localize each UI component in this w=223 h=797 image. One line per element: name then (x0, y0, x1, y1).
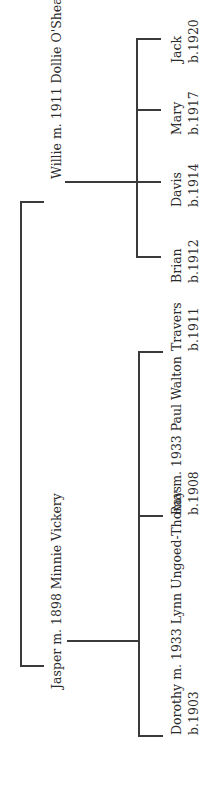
child-ray: Ray m. 1933 Paul Walton b.1908 (168, 356, 202, 515)
child-birth: b.1920 (185, 19, 202, 63)
child-tick-ray (138, 515, 163, 517)
children-bracket-willie (136, 38, 138, 258)
family-tree: Jasper m. 1898 Minnie Vickery Dorothy m.… (0, 0, 223, 797)
child-mary: Mary b.1917 (168, 91, 202, 135)
child-name: Brian (168, 239, 185, 283)
child-tick-brian (136, 256, 161, 258)
child-name: Mary (168, 91, 185, 135)
child-davis: Davis b.1914 (168, 163, 202, 207)
child-tick-davis (136, 181, 161, 183)
child-birth: b.1908 (185, 356, 202, 515)
child-brian: Brian b.1912 (168, 239, 202, 283)
children-bracket-jasper (138, 351, 140, 737)
child-name: Ray m. 1933 Paul Walton (168, 356, 185, 515)
sibling-tick-willie (20, 201, 44, 203)
child-tick-travers (138, 351, 163, 353)
couple-label-jasper: Jasper m. 1898 Minnie Vickery (50, 493, 64, 689)
child-birth: b.1912 (185, 239, 202, 283)
child-tick-dorothy (138, 735, 163, 737)
descent-line-willie (65, 181, 138, 183)
child-birth: b.1914 (185, 163, 202, 207)
sibling-bracket-line (20, 201, 22, 667)
child-birth: b.1911 (185, 302, 202, 351)
child-tick-jack (136, 38, 161, 40)
sibling-tick-jasper (20, 665, 44, 667)
child-dorothy: Dorothy m. 1933 Lynn Ungoed-Thomas b.190… (168, 486, 202, 735)
couple-label-willie: Willie m. 1911 Dollie O'Shea (50, 0, 64, 179)
child-birth: b.1917 (185, 91, 202, 135)
child-name: Dorothy m. 1933 Lynn Ungoed-Thomas (168, 486, 185, 735)
child-name: Davis (168, 163, 185, 207)
child-travers: Travers b.1911 (168, 302, 202, 351)
child-birth: b.1903 (185, 486, 202, 735)
descent-line-jasper (67, 640, 140, 642)
child-name: Jack (168, 19, 185, 63)
child-jack: Jack b.1920 (168, 19, 202, 63)
child-name: Travers (168, 302, 185, 351)
child-tick-mary (136, 109, 161, 111)
